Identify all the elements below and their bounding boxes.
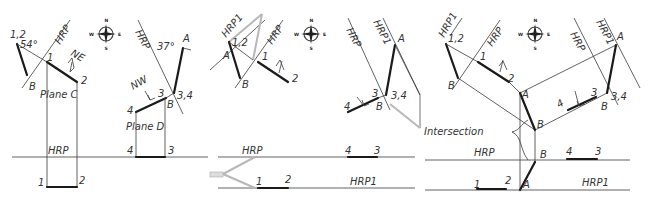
label-4: 4 [127, 105, 133, 116]
label-ne: NE [69, 47, 87, 64]
projection-line-a [520, 45, 616, 93]
label-1-2: 1,2 [232, 37, 248, 48]
label-a: A [222, 50, 230, 61]
label-2-front: 2 [79, 175, 85, 186]
label-nw: NW [129, 73, 151, 92]
label-hrp1-fold: HRP1 [350, 176, 377, 187]
label-b-r: B [376, 101, 383, 112]
label-3: 3 [372, 88, 378, 99]
compass-icon: N S E W [89, 18, 121, 51]
label-angle-54: 54° [20, 39, 38, 50]
plane-edge-34 [568, 97, 596, 110]
label-1-fold: 1 [474, 179, 480, 190]
label-1-front: 1 [38, 177, 44, 188]
label-4-front: 4 [127, 145, 133, 156]
compass-icon: N S E W [518, 18, 550, 51]
edge-ab-left [446, 44, 458, 78]
projection-line-b2 [535, 93, 607, 130]
edge-line [378, 95, 386, 98]
normal-arrow [279, 61, 282, 73]
edge-line [183, 48, 191, 50]
label-hrp-d: HRP [133, 28, 153, 52]
label-3-4: 3,4 [391, 90, 407, 101]
perp-marker [499, 61, 507, 70]
label-hrp1: HRP1 [219, 12, 245, 40]
label-b: B [448, 80, 455, 91]
edge-ab [386, 45, 395, 95]
label-plane-d: Plane D [126, 121, 165, 132]
label-b-d: B [167, 99, 174, 110]
label-b-fold: B [540, 149, 547, 160]
label-4: 4 [555, 97, 566, 110]
label-b-r: B [601, 101, 608, 112]
label-3-front: 3 [168, 145, 174, 156]
svg-text:S: S [105, 46, 108, 51]
label-b-mid: B [537, 119, 544, 130]
label-hrp-fold: HRP [48, 145, 69, 156]
plane-edge-12 [258, 62, 288, 82]
svg-text:S: S [310, 46, 313, 51]
descriptive-geometry-figure: 1,2 54° HRP 1 NE 2 B Plane C HRP 1 2 HRP… [0, 0, 648, 199]
label-2-fold: 2 [505, 175, 511, 186]
normal-arrow [357, 97, 364, 106]
label-1-2: 1,2 [448, 33, 464, 44]
label-b: B [242, 79, 249, 90]
plane-c-edge [47, 62, 77, 82]
label-4-fold: 4 [345, 145, 351, 156]
edge-line [166, 93, 174, 98]
divider-leg [390, 104, 420, 128]
label-hrp: HRP [52, 22, 73, 46]
label-4: 4 [344, 101, 350, 112]
svg-text:N: N [105, 18, 109, 23]
label-1: 1 [480, 51, 486, 62]
label-hrp-fold: HRP [474, 147, 495, 158]
label-2-fold: 2 [285, 174, 291, 185]
svg-text:N: N [534, 18, 538, 23]
compass-icon: N S E W [294, 18, 326, 51]
edge-a [174, 48, 183, 93]
label-3: 3 [591, 87, 597, 98]
nw-arrow [145, 91, 150, 100]
label-hrp1-r: HRP1 [594, 18, 616, 47]
label-2: 2 [292, 73, 298, 84]
label-hrp1-fold: HRP1 [582, 177, 609, 188]
divider-leg [223, 174, 255, 188]
label-2: 2 [81, 75, 87, 86]
svg-text:E: E [323, 32, 326, 37]
label-a-fold: A [522, 179, 530, 190]
label-3-4: 3,4 [611, 91, 627, 102]
edge-line [395, 45, 420, 95]
svg-text:E: E [118, 32, 121, 37]
panel-3: HRP1 1,2 HRP 1 2 B A B HRP HRP1 A 3 3,4 … [424, 10, 640, 190]
label-1: 1 [47, 52, 53, 63]
label-3-fold: 3 [595, 146, 601, 157]
svg-text:W: W [294, 32, 299, 37]
label-1-fold: 1 [256, 176, 262, 187]
svg-text:E: E [547, 32, 550, 37]
plane-d-edge [136, 98, 166, 112]
label-4-fold: 4 [566, 146, 572, 157]
svg-text:S: S [534, 46, 537, 51]
label-b: B [29, 81, 36, 92]
label-a-r: A [616, 31, 624, 42]
label-plane-c: Plane C [40, 89, 78, 100]
normal-arrow [500, 60, 503, 72]
label-a: A [182, 33, 190, 44]
label-hrp: HRP [265, 22, 286, 46]
label-hrp-r: HRP [568, 30, 588, 54]
divider-leg [223, 157, 255, 174]
label-hrp: HRP [485, 24, 506, 48]
label-a-r: A [397, 33, 405, 44]
svg-text:W: W [89, 32, 94, 37]
label-3-4: 3,4 [177, 90, 193, 101]
label-1: 1 [262, 51, 268, 62]
divider-handle [210, 172, 223, 177]
label-hrp-fold: HRP [242, 145, 263, 156]
label-2: 2 [508, 73, 514, 84]
label-3: 3 [158, 88, 164, 99]
normal-arrow [575, 91, 579, 106]
label-3-fold: 3 [374, 145, 380, 156]
label-angle-37: 37° [157, 41, 175, 52]
svg-text:N: N [310, 18, 314, 23]
label-a-mid: A [521, 89, 529, 100]
